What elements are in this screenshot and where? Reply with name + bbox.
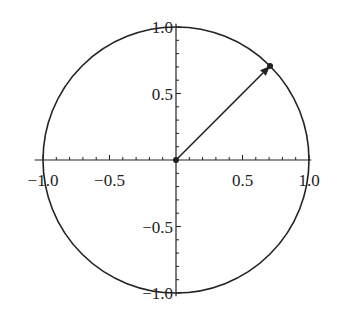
x-tick-label: 0.5 bbox=[232, 171, 253, 190]
endpoint-point bbox=[267, 63, 273, 69]
origin-point bbox=[173, 157, 179, 163]
y-tick-label: 0.5 bbox=[152, 85, 173, 104]
vector-shaft bbox=[176, 73, 263, 160]
y-tick-label: −0.5 bbox=[142, 218, 173, 237]
unit-circle-plot: −1.0−0.50.51.0−1.0−0.50.51.0 bbox=[0, 0, 340, 320]
vector-arrow bbox=[176, 66, 270, 160]
x-tick-label: −0.5 bbox=[94, 171, 125, 190]
